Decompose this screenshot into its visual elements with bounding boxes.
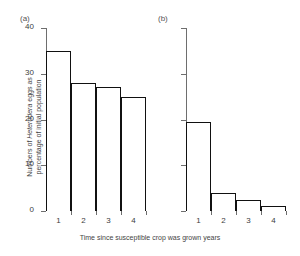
bar [261, 206, 286, 211]
panel-a-x-tick [71, 211, 72, 215]
bar [211, 193, 236, 211]
bar [46, 51, 71, 211]
panel-a-x-tick [121, 211, 122, 215]
bar [186, 122, 211, 211]
panel-a-plot-area: 010203040 1234 [46, 28, 146, 211]
panel-a-y-tick-label: 40 [25, 22, 34, 31]
panel-b-x-tick-label: 4 [271, 216, 275, 225]
panel-b-y-tick [181, 74, 186, 75]
panel-a-y-tick-label: 10 [25, 159, 34, 168]
panel-b-x-tick-label: 3 [246, 216, 250, 225]
panel-b-plot-area: 1234 [186, 28, 286, 211]
panel-a-x-tick-label: 3 [106, 216, 110, 225]
panel-b-y-tick [181, 120, 186, 121]
y-axis-title-line2: percentage of initial population [34, 42, 43, 212]
panel-b-x-tick [286, 211, 287, 215]
bar [96, 87, 121, 211]
panel-a-y-tick-label: 20 [25, 114, 34, 123]
panel-a-x-tick-label: 1 [56, 216, 60, 225]
y-axis-title-prefix: Numbers of [26, 139, 33, 177]
panel-a-x-tick-label: 2 [81, 216, 85, 225]
panel-a-x-tick-label: 4 [131, 216, 135, 225]
panel-a-y-tick: 0 [41, 211, 46, 212]
figure-canvas: (a) (b) Numbers of Heterodera eggs as pe… [0, 0, 300, 256]
panel-a-y-tick: 40 [41, 28, 46, 29]
bar [236, 200, 261, 211]
panel-b-x-tick-label: 1 [196, 216, 200, 225]
panel-b-y-tick [181, 28, 186, 29]
panel-b-x-tick [261, 211, 262, 215]
panel-b-x-tick [236, 211, 237, 215]
bar [71, 83, 96, 211]
panel-label-b: (b) [158, 14, 168, 23]
panel-b-x-tick [211, 211, 212, 215]
panel-a-x-tick [146, 211, 147, 215]
panel-b-y-tick [181, 211, 186, 212]
panel-a-y-tick-label: 30 [25, 68, 34, 77]
panel-a-x-tick [96, 211, 97, 215]
bar [121, 97, 146, 211]
panel-b-x-tick-label: 2 [221, 216, 225, 225]
y-axis-title-suffix: eggs as [26, 77, 33, 103]
x-axis-title: Time since susceptible crop was grown ye… [0, 234, 300, 241]
panel-a-y-tick-label: 0 [30, 205, 34, 214]
